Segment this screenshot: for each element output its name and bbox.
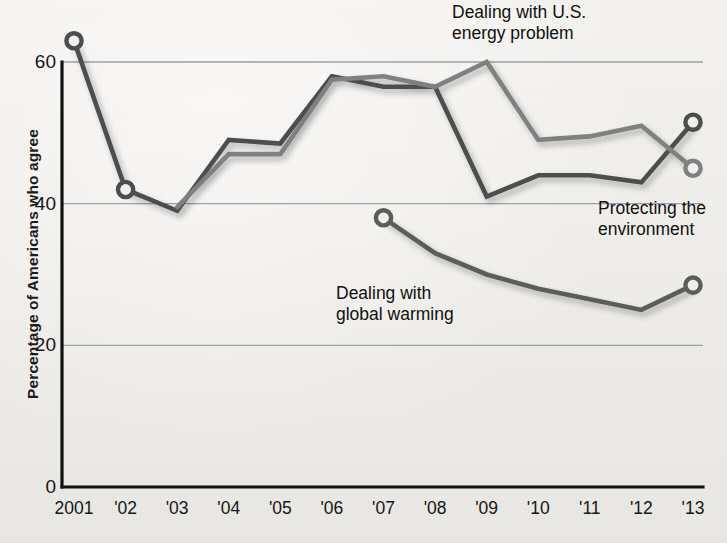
chart-canvas: Percentage of Americans who agree 604020… [0,0,727,543]
data-point-marker [685,115,700,130]
data-point-marker [376,210,391,225]
data-point-marker [685,161,700,176]
y-axis-tick-label: 40 [10,194,56,213]
data-point-marker [118,182,133,197]
x-axis-tick-label: '13 [682,498,705,519]
series-markers [66,33,700,293]
x-axis-tick-label: '03 [166,498,189,519]
x-axis-tick-label: '12 [630,498,653,519]
y-axis-tick-label: 60 [10,52,56,71]
line-chart-plot [0,0,727,543]
x-axis-tick-label: '02 [114,498,137,519]
data-point-marker [66,33,81,48]
x-axis-tick-label: '08 [424,498,447,519]
y-axis-tick-label: 20 [10,335,56,354]
series-line-1 [177,62,693,207]
series-line-0 [74,41,693,211]
x-axis-tick-label: '07 [372,498,395,519]
y-axis-tick-labels: 6040200 [10,0,56,543]
annotation-environment: Protecting the environment [598,198,706,241]
axes [62,62,703,487]
x-axis-tick-label: '05 [269,498,292,519]
annotation-energy: Dealing with U.S. energy problem [452,2,586,45]
x-axis-tick-label: '10 [527,498,550,519]
x-axis-tick-label: 2001 [55,498,94,519]
x-axis-tick-label: '09 [475,498,498,519]
series-lines [74,41,693,310]
x-axis-tick-label: '04 [217,498,240,519]
x-axis-tick-label: '11 [579,498,601,519]
x-axis-tick-label: '06 [321,498,344,519]
data-point-marker [685,278,700,293]
y-axis-tick-label: 0 [10,477,56,496]
annotation-global-warming: Dealing with global warming [336,283,454,326]
